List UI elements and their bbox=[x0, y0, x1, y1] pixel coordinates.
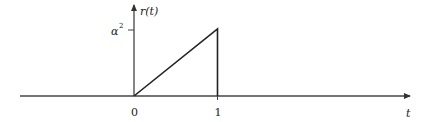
x-tick-label-1: 1 bbox=[215, 106, 222, 119]
ramp-signal-curve bbox=[134, 29, 218, 96]
x-axis-label: t bbox=[406, 107, 411, 120]
y-axis-label: r(t) bbox=[140, 5, 158, 18]
y-tick-label-base: α bbox=[111, 25, 119, 38]
x-tick-label-0: 0 bbox=[131, 106, 138, 119]
y-tick-label-exponent: 2 bbox=[119, 22, 123, 30]
ramp-signal-diagram: r(t) t α 2 0 1 bbox=[0, 0, 432, 122]
